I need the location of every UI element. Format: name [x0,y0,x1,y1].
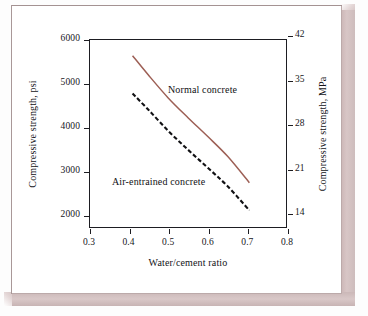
frame-bevel-bottom [12,292,355,306]
series-curve-air-entrained-concrete [133,94,250,211]
series-curve-normal-concrete [133,56,250,183]
x-axis-title: Water/cement ratio [149,257,228,268]
series-label-air-entrained-concrete: Air-entrained concrete [112,176,205,187]
series-label-normal-concrete: Normal concrete [168,84,237,95]
y-axis-left-title: Compressive strength, psi [27,80,38,187]
figure-screenshot: 20003000400050006000 1421283542 0.30.40.… [0,0,368,316]
y-axis-right-title: Compressive strength, MPa [317,77,328,192]
data-curves [12,6,342,294]
frame-bevel-right [340,10,355,306]
chart-figure: 20003000400050006000 1421283542 0.30.40.… [12,6,342,294]
